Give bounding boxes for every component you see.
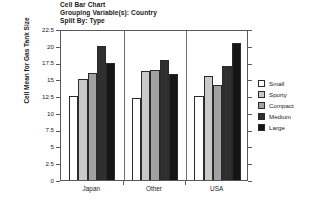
legend-item-medium[interactable]: Medium [258,111,294,122]
cell-bar-chart: Cell Bar Chart Grouping Variable(s): Cou… [0,0,313,202]
bar-sporty-other[interactable] [141,71,150,180]
bar-small-japan[interactable] [69,96,78,180]
y-axis-tick-label: 17.5 [42,59,54,66]
chart-subtitle-grouping: Grouping Variable(s): Country [60,9,157,17]
legend-label-medium: Medium [269,113,291,120]
y-axis-tick-label: 22.5 [42,26,54,33]
legend-item-large[interactable]: Large [258,122,294,133]
y-axis-tick-label: 20 [47,43,54,50]
legend-item-sporty[interactable]: Sporty [258,89,294,100]
plot-area [60,30,248,181]
legend-label-sporty: Sporty [269,91,287,98]
x-axis-tick [185,181,186,185]
y-axis-right-tick-mark [248,80,252,81]
legend-label-small: Small [269,80,284,87]
y-axis-tick-label: 0 [51,177,54,184]
bar-medium-usa[interactable] [222,66,231,180]
y-axis-right-tick-mark [248,47,252,48]
x-axis-label-usa: USA [185,185,248,192]
y-axis-right-tick-mark [248,64,252,65]
x-axis-label-japan: Japan [60,185,123,192]
legend-swatch-small [258,80,265,87]
bar-small-other[interactable] [132,98,141,180]
legend-label-compact: Compact [269,102,294,109]
chart-subtitle-split: Split By: Type [60,17,157,25]
bar-group-bars [194,31,240,180]
y-axis: 02.557.51012.51517.52022.5 [0,30,60,181]
legend-swatch-medium [258,113,265,120]
bar-group [69,31,115,180]
bar-medium-japan[interactable] [97,46,106,180]
legend-swatch-compact [258,102,265,109]
y-axis-tick-label: 5 [51,143,54,150]
bar-group [132,31,178,180]
y-axis-tick-label: 12.5 [42,93,54,100]
bar-compact-japan[interactable] [88,73,97,180]
y-axis-tick-label: 15 [47,76,54,83]
chart-title-block: Cell Bar Chart Grouping Variable(s): Cou… [60,1,157,26]
bar-large-other[interactable] [169,74,178,180]
bar-sporty-japan[interactable] [78,79,87,180]
y-axis-tick-label: 2.5 [45,160,54,167]
bar-medium-other[interactable] [160,60,169,180]
bar-large-usa[interactable] [232,43,241,180]
y-axis-right-tick-mark [248,97,252,98]
y-axis-right-tick-mark [248,164,252,165]
x-axis-tick [123,181,124,185]
y-axis-right-tick-mark [248,147,252,148]
legend-swatch-large [258,124,265,131]
bar-compact-usa[interactable] [213,85,222,180]
legend-label-large: Large [269,124,285,131]
bar-large-japan[interactable] [106,63,115,180]
bar-compact-other[interactable] [150,70,159,180]
legend-item-compact[interactable]: Compact [258,100,294,111]
y-axis-tick-label: 10 [47,110,54,117]
legend-item-small[interactable]: Small [258,78,294,89]
y-axis-tick-label: 7.5 [45,126,54,133]
group-separator [186,31,187,180]
legend-swatch-sporty [258,91,265,98]
group-separator [124,31,125,180]
bar-small-usa[interactable] [194,96,203,180]
legend: SmallSportyCompactMediumLarge [258,78,294,133]
bar-group-bars [132,31,178,180]
y-axis-right-tick-mark [248,114,252,115]
y-axis-right-tick-mark [248,131,252,132]
bar-sporty-usa[interactable] [204,76,213,180]
y-axis-tick-mark [56,181,60,182]
x-axis-label-other: Other [123,185,186,192]
bar-group [194,31,240,180]
y-axis-right-tick-mark [248,181,252,182]
chart-title: Cell Bar Chart [60,1,157,9]
y-axis-right-tick-mark [248,30,252,31]
bar-group-bars [69,31,115,180]
